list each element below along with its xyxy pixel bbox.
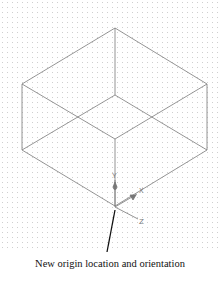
cube-edges bbox=[22, 28, 207, 206]
leader-line bbox=[107, 210, 115, 252]
isometric-cube-wireframe: Y X Z bbox=[0, 0, 220, 293]
z-axis-label: Z bbox=[139, 217, 144, 226]
figure-caption: New origin location and orientation bbox=[0, 258, 220, 269]
y-axis-label: Y bbox=[112, 172, 117, 179]
x-axis-label: X bbox=[139, 187, 144, 194]
